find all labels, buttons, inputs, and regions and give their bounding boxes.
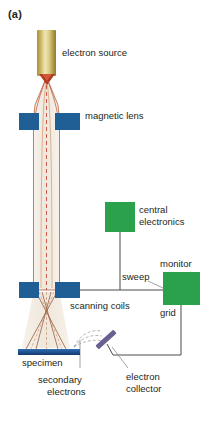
label-central-electronics-1: central: [139, 204, 168, 215]
label-secondary-electrons-2: electrons: [47, 386, 86, 397]
label-electron-source: electron source: [62, 47, 127, 58]
central-electronics-box[interactable]: [105, 202, 135, 232]
monitor-box[interactable]: [163, 272, 200, 305]
label-secondary-electrons-1: secondary: [38, 374, 82, 385]
deflected-beam-fan: [22, 292, 70, 349]
filament-tip-icon: [36, 74, 58, 86]
label-scanning-coils: scanning coils: [70, 300, 130, 311]
label-electron-collector-1: electron: [126, 371, 160, 382]
electron-source-cylinder: [37, 30, 56, 76]
label-sweep: sweep: [122, 271, 149, 282]
label-specimen: specimen: [22, 357, 63, 368]
magnetic-lens-right: [55, 113, 80, 130]
scanning-coil-right: [55, 282, 80, 298]
electron-beam-column: [34, 77, 60, 290]
label-electron-collector-2: collector: [126, 383, 161, 394]
specimen-bar: [18, 349, 80, 355]
label-central-electronics-2: electronics: [139, 216, 184, 227]
magnetic-lens-left: [19, 113, 39, 130]
scanning-coil-left: [19, 282, 39, 298]
label-monitor: monitor: [160, 258, 192, 269]
label-magnetic-lens: magnetic lens: [85, 110, 144, 121]
label-grid: grid: [160, 307, 176, 318]
